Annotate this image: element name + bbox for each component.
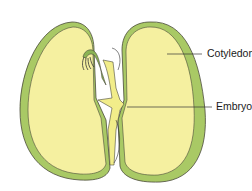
seed-diagram bbox=[0, 0, 252, 191]
cotyledon-label: Cotyledon bbox=[207, 47, 252, 59]
embryo-label: Embryo bbox=[216, 100, 252, 112]
